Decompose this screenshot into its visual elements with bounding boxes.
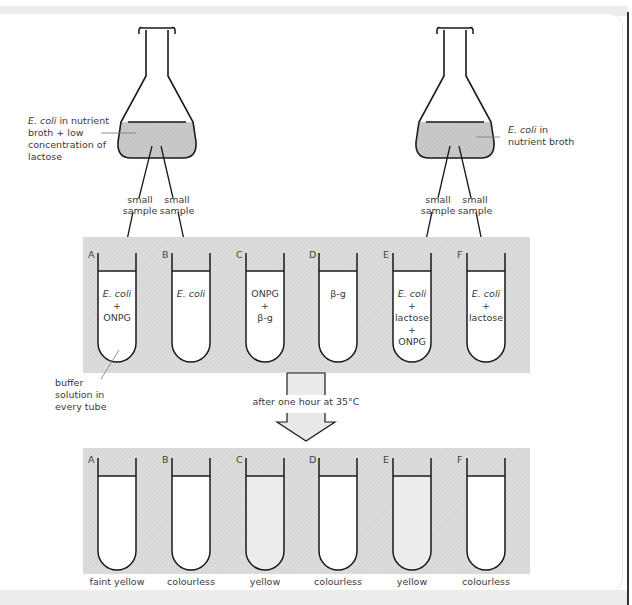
tube-result-label: colourless (462, 576, 510, 587)
tube-contents-line: ONPG (251, 288, 279, 299)
tube-contents-line: + (113, 300, 121, 311)
svg-text:every tube: every tube (55, 401, 107, 412)
tube-liquid (246, 476, 284, 570)
flask-right-label: E. coli in nutrient broth (508, 124, 574, 147)
tube-liquid (467, 476, 505, 570)
tube-letter: F (457, 454, 462, 465)
svg-text:sample: sample (458, 205, 493, 216)
tube-letter: B (162, 249, 169, 260)
tube-contents-line: E. coli (472, 288, 501, 299)
tube-contents-line: β-g (330, 288, 346, 299)
tube-contents-line: E. coli (398, 288, 427, 299)
tube-letter: F (457, 249, 462, 260)
svg-text:solution in: solution in (55, 389, 104, 400)
tube-letter: A (88, 454, 95, 465)
tube-contents-line: lactose (469, 312, 503, 323)
tube-contents-line: + (408, 300, 416, 311)
flask-left (101, 28, 196, 158)
svg-text:small: small (164, 194, 189, 205)
tube-letter: E (383, 249, 389, 260)
tube-liquid (319, 476, 357, 570)
tube-liquid (98, 476, 136, 570)
tube-liquid (172, 476, 210, 570)
tube-contents-line: + (408, 324, 416, 335)
tube-letter: A (88, 249, 95, 260)
tube-letter: E (383, 454, 389, 465)
svg-text:lactose: lactose (28, 151, 62, 162)
tube-contents-line: E. coli (177, 288, 206, 299)
sample-labels: small sample small sample small sample s… (123, 194, 493, 216)
svg-text:small: small (425, 194, 450, 205)
tube-contents-line: lactose (395, 312, 429, 323)
tube-contents-line: E. coli (103, 288, 132, 299)
experiment-diagram: E. coli in nutrient broth + low concentr… (0, 0, 632, 605)
tube-result-label: colourless (167, 576, 215, 587)
tube-contents-line: + (261, 300, 269, 311)
flask-left-label: E. coli in nutrient broth + low concentr… (28, 115, 109, 162)
tube-result-label: faint yellow (90, 576, 145, 587)
svg-text:E. coli in: E. coli in (508, 124, 548, 135)
tube-contents-line: ONPG (398, 336, 426, 347)
tube-letter: D (309, 454, 316, 465)
tube-letter: C (236, 454, 243, 465)
tube-liquid (393, 476, 431, 570)
tube-contents-line: + (482, 300, 490, 311)
svg-text:sample: sample (421, 205, 456, 216)
svg-text:nutrient broth: nutrient broth (508, 136, 574, 147)
tube-letter: B (162, 454, 169, 465)
tube-contents-line: β-g (257, 312, 273, 323)
svg-text:sample: sample (160, 205, 195, 216)
flask-left-liquid (118, 40, 196, 158)
svg-text:concentration of: concentration of (28, 139, 107, 150)
tube-liquid (172, 271, 210, 362)
results-rack-background (83, 448, 530, 574)
flask-right (416, 28, 500, 158)
svg-text:small: small (127, 194, 152, 205)
setup-rack-background (83, 237, 530, 373)
tube-result-label: colourless (314, 576, 362, 587)
tube-liquid (319, 271, 357, 362)
svg-text:small: small (462, 194, 487, 205)
tube-letter: D (309, 249, 316, 260)
tube-letter: C (236, 249, 243, 260)
tube-result-label: yellow (397, 576, 428, 587)
flask-right-liquid (416, 30, 494, 158)
svg-text:broth + low: broth + low (28, 127, 84, 138)
tube-contents-line: ONPG (103, 312, 131, 323)
svg-text:E. coli in nutrient: E. coli in nutrient (28, 115, 109, 126)
buffer-label: buffer (55, 377, 83, 388)
svg-text:sample: sample (123, 205, 158, 216)
tube-result-label: yellow (250, 576, 281, 587)
process-condition-label: after one hour at 35°C (252, 396, 359, 407)
process-arrow (277, 373, 335, 441)
